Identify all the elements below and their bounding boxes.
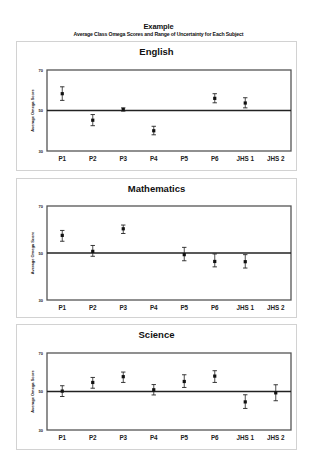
- y-axis-label: Average Omega Score: [30, 88, 35, 131]
- english-chart-panel: English 305070Average Omega ScoreP1P2P3P…: [16, 41, 297, 171]
- error-bar-point: [152, 126, 156, 135]
- error-bar-point: [274, 385, 278, 401]
- chart-subtitle: Average Class Omega Scores and Range of …: [0, 31, 317, 37]
- error-bar-point: [243, 255, 247, 268]
- error-bar-point: [121, 108, 125, 111]
- error-bar-point: [91, 377, 95, 388]
- y-tick-label: 30: [39, 428, 44, 433]
- error-bar-point: [182, 247, 186, 260]
- x-tick-label: P4: [150, 155, 158, 162]
- mathematics-plot: 305070Average Omega ScoreP1P2P3P4P5P6JHS…: [17, 179, 298, 319]
- x-tick-label: P4: [150, 434, 158, 441]
- x-tick-label: P1: [58, 304, 66, 311]
- error-bar-point: [152, 385, 156, 395]
- chart-main-title: Example: [0, 22, 317, 31]
- x-tick-label: P6: [211, 304, 219, 311]
- error-bar-point: [213, 254, 217, 267]
- x-tick-label: JHS 2: [267, 155, 285, 162]
- error-bar-point: [91, 115, 95, 126]
- x-tick-label: P5: [180, 155, 188, 162]
- english-plot: 305070Average Omega ScoreP1P2P3P4P5P6JHS…: [17, 42, 298, 172]
- x-tick-label: P4: [150, 304, 158, 311]
- x-tick-label: P2: [89, 434, 97, 441]
- y-tick-label: 70: [39, 351, 44, 356]
- error-bar-point: [213, 94, 217, 103]
- x-tick-label: P5: [180, 434, 188, 441]
- x-tick-label: P5: [180, 304, 188, 311]
- y-tick-label: 50: [39, 389, 44, 394]
- science-plot: 305070Average Omega ScoreP1P2P3P4P5P6JHS…: [17, 325, 298, 451]
- x-tick-label: JHS 2: [267, 434, 285, 441]
- error-bar-point: [121, 372, 125, 382]
- error-bar-point: [121, 225, 125, 233]
- x-tick-label: P3: [119, 434, 127, 441]
- error-bar-point: [60, 87, 64, 101]
- error-bar-point: [60, 386, 64, 397]
- y-axis-label: Average Omega Score: [30, 369, 35, 412]
- y-tick-label: 50: [39, 108, 44, 113]
- x-tick-label: P3: [119, 304, 127, 311]
- x-tick-label: P1: [58, 155, 66, 162]
- y-tick-label: 50: [39, 251, 44, 256]
- y-tick-label: 70: [39, 204, 44, 209]
- error-bar-point: [243, 395, 247, 409]
- x-tick-label: P2: [89, 304, 97, 311]
- y-axis-label: Average Omega Score: [30, 231, 35, 274]
- x-tick-label: P6: [211, 434, 219, 441]
- y-tick-label: 30: [39, 298, 44, 303]
- x-tick-label: JHS 2: [267, 304, 285, 311]
- x-tick-label: P3: [119, 155, 127, 162]
- error-bar-point: [182, 375, 186, 388]
- error-bar-point: [60, 230, 64, 241]
- error-bar-point: [213, 371, 217, 383]
- error-bar-point: [91, 245, 95, 256]
- y-tick-label: 70: [39, 68, 44, 73]
- x-tick-label: JHS 1: [236, 304, 254, 311]
- x-tick-label: P2: [89, 155, 97, 162]
- x-tick-label: P1: [58, 434, 66, 441]
- x-tick-label: JHS 1: [236, 155, 254, 162]
- error-bar-point: [243, 98, 247, 108]
- x-tick-label: P6: [211, 155, 219, 162]
- y-tick-label: 30: [39, 149, 44, 154]
- mathematics-chart-panel: Mathematics 305070Average Omega ScoreP1P…: [16, 178, 297, 318]
- science-chart-panel: Science 305070Average Omega ScoreP1P2P3P…: [16, 324, 297, 450]
- x-tick-label: JHS 1: [236, 434, 254, 441]
